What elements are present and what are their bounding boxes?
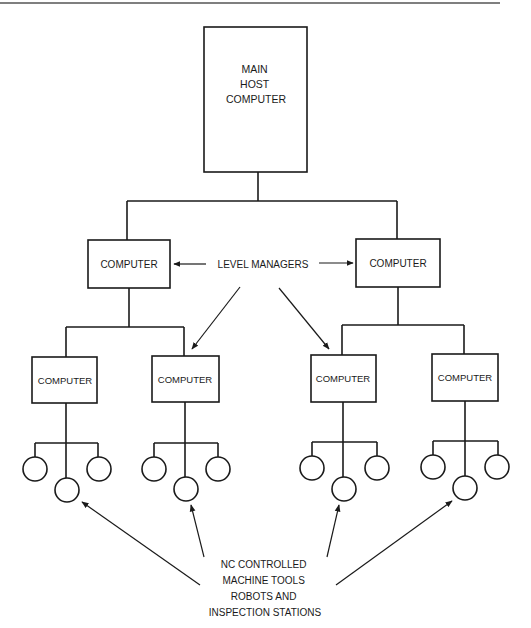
main-host-label-1: MAIN xyxy=(241,63,267,75)
arrow-to-level3-3 xyxy=(279,288,329,349)
devices-label-1: NC CONTROLLED xyxy=(221,559,307,570)
level2-label-left: COMPUTER xyxy=(100,259,157,270)
devices-label-3: ROBOTS AND xyxy=(231,591,297,602)
device-circle xyxy=(332,477,356,501)
device-circle xyxy=(365,456,389,480)
main-host-label-3: COMPUTER xyxy=(226,93,287,105)
devices-label-2: MACHINE TOOLS xyxy=(222,575,305,586)
device-circle xyxy=(23,457,47,481)
device-circle xyxy=(485,455,509,479)
device-circle xyxy=(421,455,445,479)
devices-label-4: INSPECTION STATIONS xyxy=(209,607,322,618)
main-host-label-2: HOST xyxy=(240,78,270,90)
device-circle xyxy=(174,477,198,501)
device-circle xyxy=(55,478,79,502)
level-managers-label: LEVEL MANAGERS xyxy=(218,259,309,270)
device-circle xyxy=(142,457,166,481)
level3-label-2: COMPUTER xyxy=(158,374,213,385)
level3-label-4: COMPUTER xyxy=(438,372,493,383)
level3-label-1: COMPUTER xyxy=(38,375,93,386)
arrow-to-devices-2 xyxy=(191,505,204,557)
arrow-to-level3-2 xyxy=(192,287,240,349)
arrow-to-devices-1 xyxy=(82,502,200,585)
level3-label-3: COMPUTER xyxy=(316,373,371,384)
svg-text:NC CONTROLLED MACHINE TOOL: NC CONTROLLED MACHINE TOOLS ROBOTS AND I… xyxy=(209,559,322,618)
device-circle xyxy=(206,457,230,481)
level2-label-right: COMPUTER xyxy=(369,258,426,269)
hierarchy-diagram: MAIN HOST COMPUTER COMPUTER COMPUTER LEV… xyxy=(0,0,531,628)
arrow-to-devices-3 xyxy=(327,505,339,557)
device-circle xyxy=(87,457,111,481)
arrow-to-devices-4 xyxy=(336,501,452,585)
device-circle xyxy=(453,476,477,500)
device-circle xyxy=(300,456,324,480)
